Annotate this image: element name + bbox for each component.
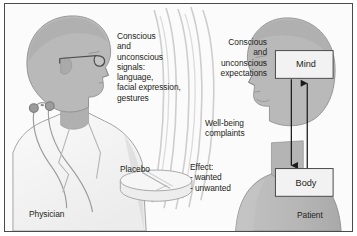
figure-frame: Conscious and unconscious signals: langu…	[4, 3, 353, 232]
placebo-tablet-icon	[120, 170, 192, 201]
body-box	[275, 169, 333, 197]
mind-box	[275, 51, 333, 79]
figure-container: Conscious and unconscious signals: langu…	[0, 0, 357, 236]
diagram-illustration	[5, 4, 352, 231]
